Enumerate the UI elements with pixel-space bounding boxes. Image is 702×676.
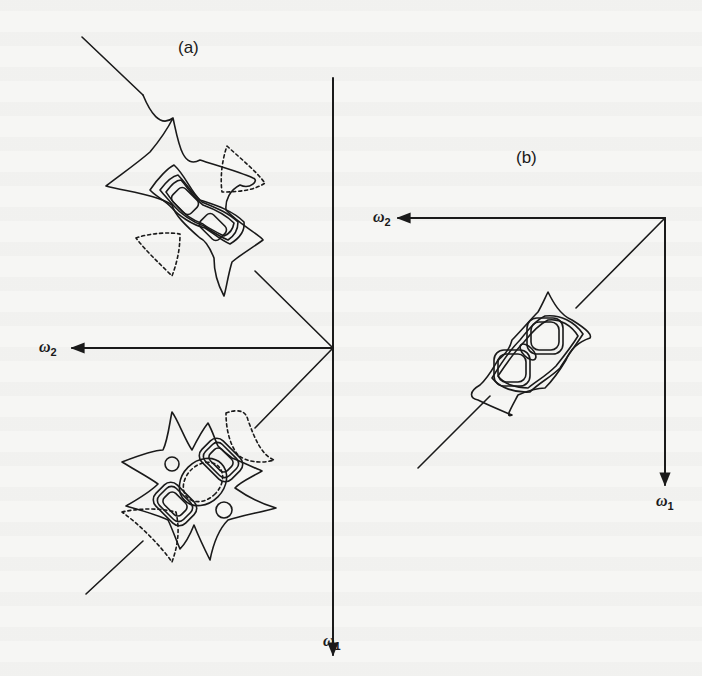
panel-b-peak-1: [531, 322, 559, 350]
panel-a-upper-peak-1: [169, 185, 200, 216]
panel-b-center-contour: [517, 341, 538, 362]
panel-b-diagonal-lower: [418, 396, 490, 468]
panel-a-lower-small-contour-1: [165, 457, 179, 471]
panel-b: [398, 218, 665, 485]
panel-a-w2-label: ω2: [39, 338, 57, 358]
panel-a-w1-label: ω1: [323, 632, 341, 652]
panel-a-diagonal-upper-outer: [82, 37, 143, 95]
panel-a-lower-peak-2-c3: [150, 479, 201, 530]
panel-b-title: (b): [516, 148, 537, 168]
panel-b-diagonal-upper: [576, 218, 665, 308]
panel-b-w2-label-base: ω: [373, 208, 385, 225]
panel-a-diagonal-lower: [255, 348, 333, 428]
panel-b-w1-label-base: ω: [656, 492, 668, 509]
panel-a-w2-label-base: ω: [39, 338, 51, 355]
panel-a-diagonal-upper: [255, 271, 333, 348]
panel-a-w1-label-base: ω: [323, 632, 335, 649]
panel-a-lower-neg-contour-left: [122, 509, 178, 562]
panel-b-peak-2: [498, 354, 526, 382]
panel-a-upper-outer-contour: [106, 95, 263, 296]
panel-b-w2-label-sub: 2: [385, 216, 391, 228]
contour-figure: [0, 0, 702, 676]
panel-a-title: (a): [178, 38, 199, 58]
panel-b-w2-label: ω2: [373, 208, 391, 228]
panel-a: [72, 37, 333, 655]
panel-a-diagonal-lower-outer: [86, 541, 143, 594]
panel-a-upper-neg-contour-left: [136, 233, 180, 276]
panel-a-lower-small-contour-2: [216, 502, 232, 518]
panel-b-w1-label-sub: 1: [668, 500, 674, 512]
panel-a-w1-label-sub: 1: [335, 640, 341, 652]
panel-b-w1-label: ω1: [656, 492, 674, 512]
panel-a-lower-peak-2: [161, 490, 189, 518]
panel-a-w2-label-sub: 2: [51, 346, 57, 358]
